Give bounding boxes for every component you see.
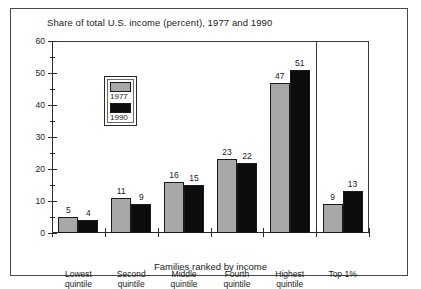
y-tick-major: [48, 169, 57, 170]
bar-1990-3: [237, 163, 257, 233]
chart-legend: 1977 1990: [104, 76, 137, 126]
category-label-line: quintile: [211, 279, 264, 289]
category-label-3: Fourthquintile: [211, 269, 264, 289]
bar-value-label: 4: [74, 208, 102, 218]
bar-value-label: 9: [319, 192, 347, 202]
legend-entry-1977: 1977: [110, 82, 131, 101]
bar-1990-4: [290, 70, 310, 233]
bar-1990-1: [131, 204, 151, 233]
category-label-1: Secondquintile: [105, 269, 158, 289]
category-label-line: quintile: [158, 279, 211, 289]
y-tick-major: [48, 73, 57, 74]
bar-1990-0: [78, 220, 98, 233]
y-tick-major: [48, 201, 57, 202]
legend-entry-1990: 1990: [110, 103, 131, 122]
y-tick-label: 30: [36, 132, 45, 142]
category-label-2: Middlequintile: [158, 269, 211, 289]
legend-inner-box: 1977 1990: [107, 79, 134, 123]
group-separator-line: [316, 41, 317, 233]
y-tick-minor: [50, 121, 55, 122]
bar-value-label: 9: [127, 192, 155, 202]
y-tick-label: 40: [36, 100, 45, 110]
bar-1977-4: [270, 83, 290, 233]
category-label-line: quintile: [263, 279, 316, 289]
x-tick: [158, 228, 159, 237]
category-label-4: Highestquintile: [263, 269, 316, 289]
y-tick-label: 60: [36, 36, 45, 46]
y-tick-label: 20: [36, 164, 45, 174]
bar-1977-5: [323, 204, 343, 233]
category-label-0: Lowestquintile: [52, 269, 105, 289]
plot-top-border: [52, 41, 369, 42]
y-tick-minor: [50, 185, 55, 186]
x-axis-title: Families ranked by income: [52, 261, 369, 272]
x-tick: [369, 228, 370, 237]
x-tick: [263, 228, 264, 237]
bar-1977-0: [58, 217, 78, 233]
x-tick: [52, 228, 53, 237]
x-tick: [105, 228, 106, 237]
y-tick-major: [48, 41, 57, 42]
bar-value-label: 51: [286, 58, 314, 68]
y-tick-minor: [50, 89, 55, 90]
bar-1990-2: [184, 185, 204, 233]
y-tick-label: 50: [36, 68, 45, 78]
y-tick-minor: [50, 153, 55, 154]
bar-value-label: 47: [266, 71, 294, 81]
bar-value-label: 13: [339, 179, 367, 189]
x-tick: [316, 228, 317, 237]
y-tick-minor: [50, 57, 55, 58]
bar-1977-2: [164, 182, 184, 233]
black-swatch-icon: [110, 103, 131, 113]
legend-label-1990: 1990: [110, 113, 131, 122]
legend-label-1977: 1977: [110, 92, 131, 101]
y-tick-minor: [50, 217, 55, 218]
x-tick: [211, 228, 212, 237]
plot-right-border: [368, 41, 369, 233]
category-label-line: quintile: [52, 279, 105, 289]
bar-1977-1: [111, 198, 131, 233]
y-tick-label: 0: [40, 228, 45, 238]
plot-area: 0102030405060 54119161523224751913 Lowes…: [52, 41, 369, 233]
bar-value-label: 22: [233, 151, 261, 161]
bar-1977-3: [217, 159, 237, 233]
category-label-line: quintile: [105, 279, 158, 289]
y-tick-label: 10: [36, 196, 45, 206]
y-tick-major: [48, 137, 57, 138]
chart-title: Share of total U.S. income (percent), 19…: [47, 17, 272, 28]
bar-value-label: 15: [180, 173, 208, 183]
gray-swatch-icon: [110, 82, 131, 92]
y-tick-major: [48, 105, 57, 106]
figure-frame: Share of total U.S. income (percent), 19…: [10, 8, 408, 276]
